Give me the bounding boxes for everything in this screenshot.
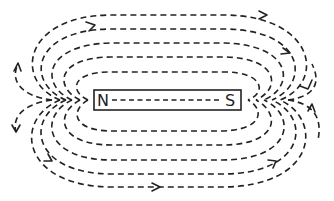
arrow-right-upper-icon	[300, 80, 312, 89]
south-pole-label: S	[225, 91, 235, 110]
arrow-top-center-icon	[259, 11, 267, 19]
arrow-bottom-left-icon	[44, 154, 52, 161]
arrow-right-lower-icon	[308, 104, 315, 112]
bottom-field-lines	[15, 100, 319, 187]
top-field-lines	[15, 15, 316, 100]
north-pole-label: N	[97, 91, 109, 110]
field-line-bottom-4	[41, 100, 296, 174]
arrow-left-upper-icon	[14, 63, 21, 71]
bar-magnet: N S	[94, 90, 241, 110]
bar-magnet-field-diagram: N S	[0, 0, 334, 201]
